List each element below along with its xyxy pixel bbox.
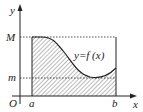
label-a: a	[29, 97, 35, 109]
label-x-axis: x	[132, 98, 138, 110]
label-function: y=f (x)	[73, 49, 105, 62]
label-min: m	[8, 71, 16, 83]
label-y-axis: y	[9, 4, 15, 16]
label-max: M	[5, 31, 16, 43]
y-axis-arrow-icon	[18, 4, 23, 11]
label-b: b	[112, 97, 118, 109]
shaded-area	[32, 37, 116, 96]
label-origin: O	[9, 97, 17, 109]
function-area-diagram: y x O M m a b y=f (x)	[0, 0, 143, 112]
